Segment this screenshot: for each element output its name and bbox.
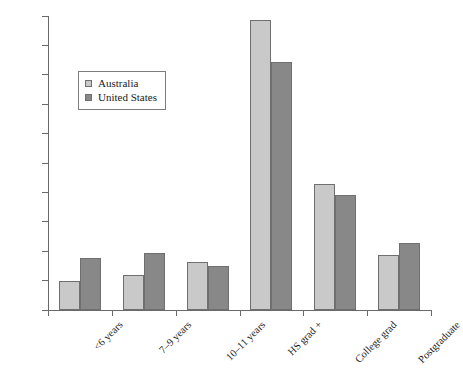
bar-group	[303, 16, 367, 310]
x-tick-mark	[240, 310, 241, 316]
legend-label: Australia	[98, 76, 138, 90]
bar	[378, 255, 399, 310]
legend-swatch-icon	[85, 80, 92, 87]
x-axis-label: 10–11 years	[224, 319, 268, 363]
bar	[144, 253, 165, 310]
x-axis-label: HS grad +	[285, 319, 324, 358]
bar-group	[240, 16, 304, 310]
bar	[314, 184, 335, 310]
bar	[80, 258, 101, 310]
bar	[399, 243, 420, 310]
bar	[123, 275, 144, 310]
x-tick-mark	[431, 310, 432, 316]
bar-group	[112, 16, 176, 310]
bar	[335, 195, 356, 310]
x-tick-mark	[48, 310, 49, 316]
x-axis-label: 7–9 years	[157, 319, 194, 356]
x-axis-label: <6 years	[92, 319, 126, 353]
x-tick-mark	[303, 310, 304, 316]
bar	[208, 266, 229, 310]
x-tick-mark	[367, 310, 368, 316]
x-tick-mark	[112, 310, 113, 316]
bar-group	[176, 16, 240, 310]
plot-area	[48, 16, 431, 310]
x-tick-mark	[176, 310, 177, 316]
legend-swatch-icon	[85, 94, 92, 101]
bar	[59, 281, 80, 310]
bar-group	[48, 16, 112, 310]
x-axis-label: Postgraduate	[416, 319, 463, 366]
bar	[271, 62, 292, 310]
bar	[187, 262, 208, 310]
legend-item-australia: Australia	[85, 76, 157, 90]
x-axis-label: College grad	[352, 319, 399, 366]
legend-label: United States	[98, 90, 157, 104]
legend-item-united-states: United States	[85, 90, 157, 104]
chart-legend: Australia United States	[78, 71, 166, 110]
bar	[250, 20, 271, 310]
bar-group	[367, 16, 431, 310]
